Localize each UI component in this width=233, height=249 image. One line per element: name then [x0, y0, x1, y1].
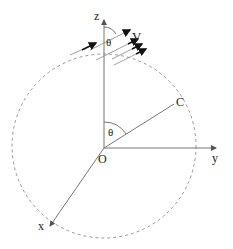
- velocity-arrow-4: [132, 44, 142, 49]
- label-y: y: [212, 151, 218, 165]
- label-z: z: [94, 9, 99, 23]
- diagram-canvas: z θ V C θ O y x: [0, 0, 233, 249]
- label-v: V: [132, 29, 142, 44]
- label-c: C: [176, 95, 184, 109]
- label-theta-center: θ: [108, 126, 113, 138]
- velocity-arrow-5: [136, 49, 146, 54]
- label-theta-top: θ: [106, 36, 111, 48]
- label-x: x: [38, 219, 44, 233]
- velocity-arrow-1: [124, 30, 130, 33]
- x-axis: [50, 148, 104, 226]
- theta-arc-top: [104, 27, 116, 34]
- label-o: O: [98, 152, 107, 166]
- oc-line: [104, 104, 174, 148]
- velocity-arrow-2: [82, 43, 96, 50]
